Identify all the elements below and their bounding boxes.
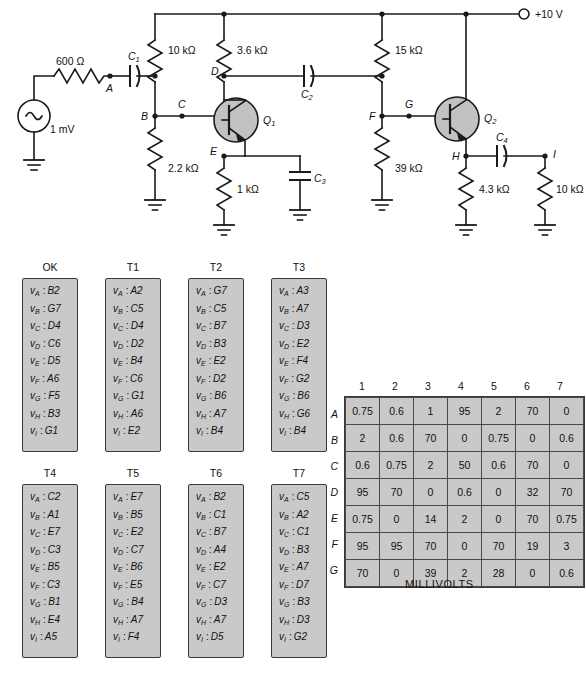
measurement-value: A7 xyxy=(214,614,226,625)
test-column-box: vA:E7vB:B5vC:E2vD:C7vE:B6vF:E5vG:B4vH:A7… xyxy=(105,484,161,658)
grid-row-header: F xyxy=(323,531,343,557)
supply-label: +10 V xyxy=(535,8,563,20)
grid-cell: 28 xyxy=(482,560,516,587)
test-measurement-row: vC:C1 xyxy=(272,523,326,541)
grid-cell: 95 xyxy=(346,479,380,506)
grid-cell: 0 xyxy=(482,506,516,533)
test-measurement-row: vB:A1 xyxy=(23,506,77,524)
measurement-value: B2 xyxy=(47,285,59,296)
voltage-node-subscript: E xyxy=(35,566,40,573)
grid-cell: 2 xyxy=(346,425,380,452)
grid-row: 0.60.752500.6700 xyxy=(346,452,584,479)
colon-separator: : xyxy=(206,320,214,331)
resistor-1k-label: 1 kΩ xyxy=(237,183,259,195)
measurement-value: F4 xyxy=(296,355,308,366)
test-measurement-row: vH:A7 xyxy=(189,611,243,629)
circuit-schematic: +10 V 1 mV 600 Ω 10 kΩ 3.6 kΩ 2.2 kΩ 1 k… xyxy=(0,0,586,245)
test-measurement-row: vB:A2 xyxy=(272,506,326,524)
measurement-value: E5 xyxy=(130,579,142,590)
node-label-c: C xyxy=(178,98,186,110)
test-measurement-row: vI:G1 xyxy=(23,422,77,440)
test-column-title: T3 xyxy=(271,261,327,273)
test-measurement-row: vG:G1 xyxy=(106,387,160,405)
grid-cell: 32 xyxy=(516,479,550,506)
measurement-value: A7 xyxy=(296,561,308,572)
test-measurement-row: vG:B4 xyxy=(106,593,160,611)
colon-separator: : xyxy=(206,614,214,625)
test-measurement-row: vI:E2 xyxy=(106,422,160,440)
measurement-value: B3 xyxy=(297,596,309,607)
measurement-value: A7 xyxy=(296,303,308,314)
measurement-value: B4 xyxy=(211,425,223,436)
test-measurement-row: vG:B6 xyxy=(189,387,243,405)
test-column-box: vA:C5vB:A2vC:C1vD:B3vE:A7vF:D7vG:B3vH:D3… xyxy=(271,484,327,658)
voltage-node-subscript: A xyxy=(35,290,40,297)
test-measurement-row: vI:A5 xyxy=(23,628,77,646)
colon-separator: : xyxy=(122,373,130,384)
colon-separator: : xyxy=(123,338,131,349)
voltage-node-subscript: B xyxy=(284,514,289,521)
test-measurement-row: vI:G2 xyxy=(272,628,326,646)
measurement-value: C7 xyxy=(131,544,144,555)
colon-separator: : xyxy=(288,373,296,384)
measurement-value: C6 xyxy=(130,373,143,384)
voltage-node-subscript: E xyxy=(35,360,40,367)
colon-separator: : xyxy=(205,373,213,384)
grid-cell: 70 xyxy=(550,479,584,506)
test-measurement-row: vD:C7 xyxy=(106,541,160,559)
measurement-value: B7 xyxy=(214,526,226,537)
measurement-value: D2 xyxy=(213,373,226,384)
test-measurement-row: vB:C5 xyxy=(189,300,243,318)
grid-cell: 1 xyxy=(414,398,448,425)
test-measurement-row: vE:B4 xyxy=(106,352,160,370)
test-measurement-row: vD:C6 xyxy=(23,335,77,353)
voltage-node-subscript: A xyxy=(118,290,123,297)
voltage-node-subscript: E xyxy=(118,566,123,573)
test-measurement-row: vG:F5 xyxy=(23,387,77,405)
colon-separator: : xyxy=(40,614,48,625)
measurement-value: A6 xyxy=(47,373,59,384)
test-measurement-row: vF:D7 xyxy=(272,576,326,594)
node-label-b: B xyxy=(141,110,148,122)
colon-separator: : xyxy=(289,614,297,625)
test-column-title: T2 xyxy=(188,261,244,273)
test-column-title: T1 xyxy=(105,261,161,273)
source-amplitude-label: 1 mV xyxy=(50,123,75,135)
resistor-10k-q1-label: 10 kΩ xyxy=(168,44,196,56)
voltage-node-subscript: B xyxy=(201,514,206,521)
test-measurement-row: vC:B7 xyxy=(189,523,243,541)
voltage-node-subscript: E xyxy=(201,360,206,367)
colon-separator: : xyxy=(289,320,297,331)
test-measurement-row: vA:A2 xyxy=(106,282,160,300)
test-measurement-row: vI:F4 xyxy=(106,628,160,646)
transistor-q2-label: Q2 xyxy=(484,112,496,126)
test-measurement-row: vF:C3 xyxy=(23,576,77,594)
resistor-3p6k-label: 3.6 kΩ xyxy=(237,44,268,56)
colon-separator: : xyxy=(288,579,296,590)
measurement-value: E2 xyxy=(297,338,309,349)
measurement-value: A7 xyxy=(131,614,143,625)
grid-row-header-column: ABCDEFG xyxy=(322,397,345,588)
capacitor-c1-label: C1 xyxy=(128,50,140,64)
colon-separator: : xyxy=(206,526,214,537)
voltage-node-subscript: B xyxy=(35,308,40,315)
colon-separator: : xyxy=(123,526,131,537)
colon-separator: : xyxy=(206,408,214,419)
test-measurement-row: vH:D3 xyxy=(272,611,326,629)
resistor-600-label: 600 Ω xyxy=(56,55,84,67)
grid-cell: 2 xyxy=(414,452,448,479)
measurement-value: G7 xyxy=(213,285,226,296)
test-measurement-row: vF:E5 xyxy=(106,576,160,594)
resistor-4p3k-label: 4.3 kΩ xyxy=(479,183,510,195)
colon-separator: : xyxy=(289,544,297,555)
measurement-value: A2 xyxy=(130,285,142,296)
grid-cell: 0.6 xyxy=(380,398,414,425)
colon-separator: : xyxy=(39,579,47,590)
colon-separator: : xyxy=(40,408,48,419)
grid-data-wrapper: 0.750.6195270020.67000.7500.60.60.752500… xyxy=(345,397,585,588)
node-label-h: H xyxy=(452,150,460,162)
colon-separator: : xyxy=(203,631,211,642)
grid-cell: 70 xyxy=(516,452,550,479)
test-measurement-row: vF:C7 xyxy=(189,576,243,594)
measurement-value: A6 xyxy=(131,408,143,419)
